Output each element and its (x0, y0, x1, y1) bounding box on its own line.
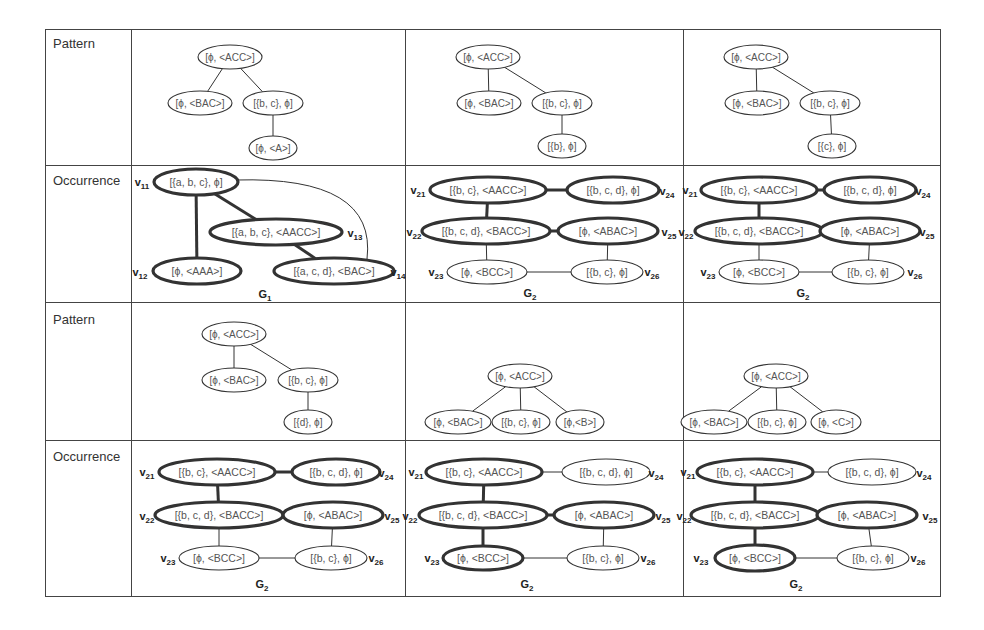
node-label: [{b, c, d}, ϕ] (586, 184, 639, 196)
graph-edge (869, 244, 870, 260)
vertex-name: v14 (390, 266, 406, 281)
graph-edge (208, 69, 223, 92)
vertex-name: v25 (661, 226, 677, 241)
graph-node-p3: [ϕ,<B>] (556, 410, 604, 434)
vertex-name: v23 (700, 266, 716, 281)
graph-node-v26: [{b, c}, ϕ]v26 (295, 546, 384, 570)
node-label: [ϕ, <ABAC>] (304, 509, 362, 521)
vertex-name: v22 (139, 510, 155, 525)
node-label: [ϕ, <BAC>] (733, 98, 782, 109)
node-label: [{b, c}, ϕ] (582, 552, 624, 564)
graph-r1c3: [ϕ, <ACC>][ϕ, <BAC>][{b, c}, ϕ][{c}, ϕ] (724, 45, 860, 158)
graph-node-p0: [ϕ, <ACC>] (202, 322, 266, 346)
vertex-name: v24 (659, 185, 675, 200)
graph-node-p3: [ϕ, <A>] (249, 136, 297, 160)
node-label: [{b, c, d}, <BACC>] (439, 509, 528, 521)
graph-edge (831, 115, 832, 134)
graph-node-v26: [{b, c}, ϕ]v26 (837, 546, 926, 570)
vertex-name: v25 (384, 510, 400, 525)
graph-node-p2: [{b, c}, ϕ] (492, 410, 550, 434)
node-label: [{b, c}, ϕ] (288, 375, 328, 386)
vertex-name: v22 (678, 226, 694, 241)
vertex-name: v21 (680, 466, 696, 481)
graph-node-v26: [{b, c}, ϕ]v26 (567, 546, 656, 570)
graph-node-v12: [ϕ, <AAA>]v12 (132, 258, 241, 284)
graph-node-p2: [{b, c}, ϕ] (243, 91, 303, 115)
graph-node-p3: [{d}, ϕ] (284, 410, 332, 434)
graph-node-v23: [ϕ, <BCC>]v23 (428, 260, 527, 284)
node-label: [ϕ, <ACC>] (731, 52, 781, 63)
vertex-name: v21 (408, 466, 424, 481)
graph-node-p0: [ϕ, <ACC>] (724, 45, 788, 69)
vertex-name: v22 (402, 510, 418, 525)
graph-edge (332, 528, 333, 546)
graph-r3c1: [ϕ, <ACC>][ϕ, <BAC>][{b, c}, ϕ][{d}, ϕ] (202, 322, 338, 434)
node-label: [{b, c}, ϕ] (852, 552, 894, 564)
graph-r2c1: [{a, b, c}, ϕ]v11[{a, b, c}, <AACC>]v13[… (132, 169, 406, 303)
graph-node-v24: [{b, c, d}, ϕ]v24 (562, 459, 664, 485)
graph-node-p1: [ϕ, <BAC>] (725, 91, 789, 115)
vertex-name: v26 (910, 552, 926, 567)
node-label: [ϕ, <ACC>] (463, 52, 513, 63)
vertex-name: v23 (693, 552, 709, 567)
graph-label: G2 (520, 578, 534, 593)
node-label: [{b, c}, ϕ] (501, 417, 541, 428)
graph-edge (505, 67, 546, 93)
node-label: [ϕ, <C>] (818, 417, 854, 428)
graph-node-p1: [ϕ, <BAC>] (681, 410, 747, 434)
vertex-name: v21 (682, 184, 698, 199)
graph-r4c1: [{b, c}, <AACC>]v21[{b, c, d}, ϕ]v24[{b,… (139, 459, 400, 593)
node-label: [ϕ, <ACC>] (205, 52, 255, 63)
vertex-name: v25 (655, 510, 671, 525)
node-label: [{a, c, d}, <BAC>] (293, 265, 374, 277)
node-label: [{b, c, d}, ϕ] (845, 466, 898, 478)
graph-node-v24: [{b, c, d}, ϕ]v24 (292, 459, 394, 485)
graph-edge (241, 68, 263, 91)
graph-node-v22: [{b, c, d}, <BACC>]v22 (402, 502, 547, 528)
vertex-name: v22 (406, 226, 422, 241)
node-label: [ϕ, <BAC>] (210, 375, 259, 386)
node-label: [{b, c, d}, <BACC>] (442, 225, 531, 237)
graph-edge (196, 195, 197, 258)
vertex-name: v26 (907, 266, 923, 281)
graph-node-v24: [{b, c, d}, ϕ]v24 (824, 177, 931, 203)
node-label: [{a, b, c}, ϕ] (169, 176, 222, 188)
node-label: [ϕ, <A>] (255, 143, 290, 154)
graph-label: G2 (255, 578, 269, 593)
graph-node-v23: [ϕ, <BCC>]v23 (160, 546, 259, 570)
graph-r2c2: [{b, c}, <AACC>]v21[{b, c, d}, ϕ]v24[{b,… (406, 177, 677, 302)
graph-node-v25: [ϕ, <ABAC>]v25 (820, 218, 935, 244)
graph-node-p2: [{b, c}, ϕ] (800, 91, 860, 115)
vertex-name: v24 (648, 467, 664, 482)
node-label: [{b, c}, ϕ] (253, 98, 293, 109)
graph-node-v26: [{b, c}, ϕ]v26 (832, 260, 923, 284)
graph-node-v24: [{b, c, d}, ϕ]v24 (567, 177, 675, 203)
node-label: [{c}, ϕ] (818, 141, 847, 152)
node-label: [{a, b, c}, <AACC>] (232, 226, 321, 238)
vertex-name: v24 (378, 467, 394, 482)
graph-node-v25: [ϕ, <ABAC>]v25 (558, 218, 677, 244)
graph-node-v14: [{a, c, d}, <BAC>]v14 (274, 258, 406, 284)
graph-node-p0: [ϕ, <ACC>] (456, 45, 520, 69)
node-label: [ϕ, <ABAC>] (575, 509, 633, 521)
graph-node-v21: [{b, c}, <AACC>]v21 (682, 177, 817, 203)
graph-node-v24: [{b, c, d}, ϕ]v24 (828, 459, 932, 485)
graph-node-v25: [ϕ, <ABAC>]v25 (554, 502, 671, 528)
graph-label: G2 (789, 578, 803, 593)
graph-label: G2 (523, 287, 537, 302)
node-label: [{b, c}, <AACC>] (178, 466, 255, 478)
graph-r3c2: [ϕ, <ACC>][ϕ, <BAC>][{b, c}, ϕ][ϕ,<B>] (425, 364, 604, 434)
node-label: [ϕ, <BAC>] (434, 417, 483, 428)
graph-node-v13: [{a, b, c}, <AACC>]v13 (210, 219, 363, 245)
node-label: [ϕ, <BCC>] (729, 552, 781, 564)
graph-node-p1: [ϕ, <BAC>] (425, 410, 491, 434)
vertex-name: v21 (139, 466, 155, 481)
graph-node-v23: [ϕ, <BCC>]v23 (693, 545, 795, 571)
vertex-name: v21 (410, 184, 426, 199)
node-label: [{b, c}, ϕ] (542, 98, 582, 109)
node-label: [ϕ, <BCC>] (457, 552, 509, 564)
node-label: [ϕ, <BAC>] (465, 98, 514, 109)
graph-edge (773, 67, 814, 93)
vertex-name: v26 (640, 552, 656, 567)
vertex-name: v13 (347, 227, 363, 242)
